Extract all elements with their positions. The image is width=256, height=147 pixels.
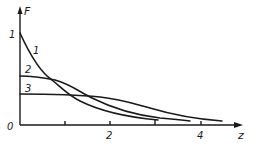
x-ticks (65, 120, 201, 125)
axes (18, 6, 244, 128)
y-tick-label-1: 1 (9, 29, 15, 40)
curve-2-label: 2 (25, 64, 31, 75)
x-tick-label-2: 2 (106, 130, 112, 141)
x-tick-label-4: 4 (197, 130, 203, 141)
x-axis-arrow-icon (234, 122, 243, 128)
y-axis-arrow-icon (18, 6, 23, 14)
chart: F z 0 1 2 4 1 2 3 (0, 0, 256, 147)
curve-3-label: 3 (25, 83, 31, 94)
origin-label: 0 (7, 121, 13, 132)
y-axis-label: F (24, 5, 31, 18)
curve-2 (20, 76, 190, 121)
curve-1 (20, 33, 158, 120)
curve-1-label: 1 (33, 45, 39, 56)
curve-3 (20, 94, 222, 121)
x-axis-label: z (237, 129, 244, 142)
